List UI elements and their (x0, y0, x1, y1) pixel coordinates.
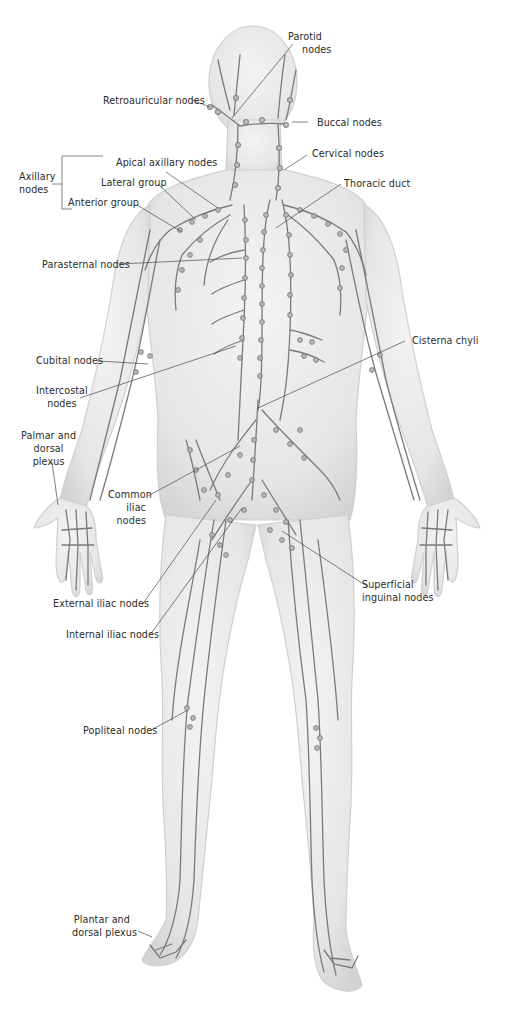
label-thoracic-duct: Thoracic duct (344, 177, 410, 190)
label-buccal-nodes: Buccal nodes (317, 116, 382, 129)
label-superficial-inguinal-nodes: Superficial inguinal nodes (362, 578, 434, 604)
label-apical-axillary-nodes: Apical axillary nodes (116, 156, 217, 169)
label-palmar-dorsal-plexus: Palmar and dorsal plexus (21, 429, 76, 468)
label-retroauricular-nodes: Retroauricular nodes (103, 94, 205, 107)
label-cervical-nodes: Cervical nodes (312, 147, 384, 160)
label-internal-iliac-nodes: Internal iliac nodes (66, 628, 159, 641)
body-silhouette (34, 26, 480, 991)
label-popliteal-nodes: Popliteal nodes (83, 724, 157, 737)
label-anterior-group: Anterior group (68, 196, 139, 209)
label-parasternal-nodes: Parasternal nodes (42, 258, 130, 271)
label-axillary-nodes: Axillary nodes (19, 170, 56, 196)
label-intercostal-nodes: Intercostal nodes (36, 384, 88, 410)
label-plantar-dorsal-plexus: Plantar and dorsal plexus (72, 913, 130, 939)
label-external-iliac-nodes: External iliac nodes (53, 597, 149, 610)
lymphatic-system-illustration (0, 0, 514, 1009)
label-cisterna-chyli: Cisterna chyli (412, 334, 479, 347)
label-common-iliac-nodes: Common iliac nodes (108, 488, 146, 527)
label-cubital-nodes: Cubital nodes (36, 354, 103, 367)
label-lateral-group: Lateral group (101, 176, 167, 189)
label-parotid-nodes: Parotid nodes (288, 30, 331, 56)
